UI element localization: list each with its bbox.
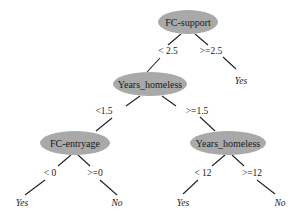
tree-edges <box>25 34 275 195</box>
node-years-homeless-2: Years_homeless <box>190 131 266 155</box>
edge-label-lt-2.5: < 2.5 <box>158 46 178 56</box>
node-label: Years_homeless <box>118 79 183 90</box>
leaf-no: No <box>110 198 122 208</box>
decision-tree-diagram: FC-support < 2.5 >=2.5 Yes Years_homeles… <box>0 0 298 221</box>
node-label: FC-support <box>165 17 211 28</box>
edge-label-lt-1.5: <1.5 <box>95 106 112 116</box>
leaf-yes: Yes <box>235 76 248 86</box>
edge-label-lt-12: < 12 <box>194 168 211 178</box>
edge-label-ge-0: >=0 <box>87 168 103 178</box>
node-fc-entryage: FC-entryage <box>40 131 110 155</box>
node-fc-support: FC-support <box>158 10 218 34</box>
leaf-yes: Yes <box>16 198 29 208</box>
edge-label-lt-0: < 0 <box>44 168 57 178</box>
node-years-homeless-1: Years_homeless <box>113 72 187 96</box>
leaf-no: No <box>273 198 285 208</box>
edge-label-ge-12: >=12 <box>242 168 262 178</box>
leaf-yes: Yes <box>177 198 190 208</box>
node-label: FC-entryage <box>50 138 101 149</box>
edge-label-ge-2.5: >=2.5 <box>200 46 223 56</box>
edge-label-ge-1.5: >=1.5 <box>186 106 209 116</box>
node-label: Years_homeless <box>196 138 261 149</box>
